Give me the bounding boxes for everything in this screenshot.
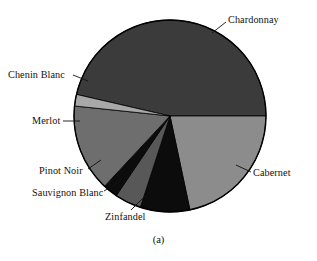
slice-label-chenin-blanc: Chenin Blanc [8, 70, 65, 80]
slice-label-cabernet: Cabernet [253, 168, 291, 178]
slice-label-merlot: Merlot [32, 116, 60, 126]
slice-label-pinot-noir: Pinot Noir [39, 166, 83, 176]
pie-chart-figure: Chardonnay Cabernet Zinfandel Sauvignon … [0, 0, 317, 261]
leader-line-chardonnay [212, 22, 226, 33]
pie-slices-group [74, 20, 266, 212]
slice-label-zinfandel: Zinfandel [105, 212, 146, 222]
slice-label-chardonnay: Chardonnay [228, 15, 279, 25]
pie-chart-canvas [0, 0, 317, 261]
slice-label-sauvignon-blanc: Sauvignon Blanc [32, 188, 103, 198]
figure-caption: (a) [0, 234, 317, 245]
